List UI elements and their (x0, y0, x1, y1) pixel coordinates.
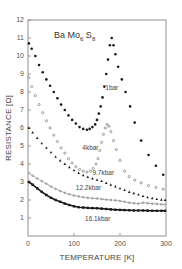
x-axis-label: TEMPERATURE [K] (60, 253, 135, 262)
y-tick-label: 8 (20, 88, 24, 95)
y-tick-label: 7 (20, 106, 24, 113)
chart-title: Ba Mo6 S8 (54, 30, 96, 42)
y-tick-label: 4 (20, 160, 24, 167)
y-tick-label: 11 (17, 34, 24, 41)
y-tick-label: 1 (20, 214, 24, 221)
series-label-16-1kbar: 16.1kbar (85, 215, 111, 222)
series-label-9-7kbar: 9.7kbar (92, 169, 115, 176)
y-tick-label: 6 (20, 124, 24, 131)
x-tick-label: 100 (68, 240, 80, 247)
resistance-temperature-chart: 123456789101112 0100200300 1bar4kbar9.7k… (0, 0, 182, 269)
series-label-4kbar: 4kbar (82, 144, 99, 151)
y-tick-label: 2 (20, 196, 24, 203)
y-tick-label: 3 (20, 178, 24, 185)
series-label-1bar: 1bar (105, 84, 119, 91)
y-axis-label: RESISTANCE [Ω] (4, 95, 13, 161)
x-tick-label: 0 (26, 240, 30, 247)
y-tick-label: 12 (16, 16, 24, 23)
y-tick-label: 5 (20, 142, 24, 149)
y-tick-label: 9 (20, 70, 24, 77)
series-label-12-2kbar: 12.2kbar (76, 184, 102, 191)
x-tick-label: 200 (114, 240, 126, 247)
x-axis-ticks: 0100200300 (26, 233, 172, 247)
y-tick-label: 10 (16, 52, 24, 59)
x-tick-label: 300 (160, 240, 172, 247)
y-axis-ticks: 123456789101112 (16, 16, 31, 221)
series-labels: 1bar4kbar9.7kbar12.2kbar16.1kbar (76, 84, 119, 222)
series-1bar (28, 37, 165, 176)
